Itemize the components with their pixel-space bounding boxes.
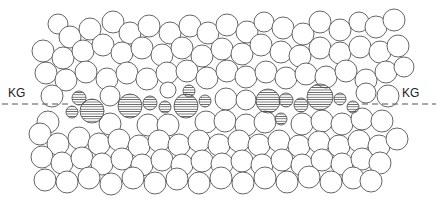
grain-circle (191, 150, 213, 172)
grain-circle (168, 134, 190, 156)
grain-circle (144, 172, 166, 194)
grain-circle (75, 61, 97, 83)
grain-circle (32, 40, 54, 62)
grain-circle (160, 82, 176, 98)
grain-circle (231, 150, 253, 172)
grain-circle (31, 146, 53, 168)
grain-circle (68, 127, 90, 149)
grain-circle (210, 167, 232, 189)
grain-circle (360, 170, 382, 192)
grain-circle (34, 169, 56, 191)
grain-circle (214, 110, 236, 132)
grain-circle (311, 110, 333, 132)
grain-circle (275, 67, 297, 89)
grain-circle (72, 40, 94, 62)
grain-circle (254, 167, 276, 189)
grain-circle (254, 111, 276, 133)
hatched-grain-circle (256, 89, 280, 113)
grain-circle (216, 14, 238, 36)
grain-circle (111, 148, 133, 170)
grain-packing-diagram: KG KG (0, 0, 438, 199)
grain-circle (228, 130, 250, 152)
hatched-grain-circle (66, 106, 78, 118)
grain-circle (329, 19, 351, 41)
grain-circle (136, 68, 158, 90)
grain-circle (108, 129, 130, 151)
grain-circle (270, 41, 292, 63)
grain-circle (111, 42, 133, 64)
hatched-grain-circle (80, 99, 104, 123)
grain-circle (52, 47, 74, 69)
hatched-grain-circle (334, 93, 346, 105)
grain-circle (151, 149, 173, 171)
grain-circle (309, 11, 331, 33)
hatched-grain-circle (294, 98, 308, 112)
grain-circle (138, 15, 160, 37)
grain-circle (156, 62, 178, 84)
grain-circle (272, 17, 294, 39)
hatched-grain-circle (143, 96, 157, 110)
grain-circle (35, 62, 57, 84)
grain-circle (208, 134, 230, 156)
hatched-grain-circle (174, 94, 198, 118)
grain-circle (387, 35, 409, 57)
grain-circle (100, 173, 122, 195)
grain-circle (250, 34, 272, 56)
grain-circle (248, 134, 270, 156)
grain-circle (295, 63, 317, 85)
grain-circle (309, 37, 331, 59)
hatched-grain-circle (183, 85, 195, 97)
grain-circle (394, 57, 414, 77)
grain-circle (171, 37, 193, 59)
hatched-grain-circle (118, 94, 142, 118)
hatched-grain-circle (159, 101, 171, 113)
grain-circle (166, 168, 188, 190)
grain-circle (298, 166, 320, 188)
grain-circle (148, 130, 170, 152)
grain-circle (196, 67, 218, 89)
grain-circle (56, 171, 78, 193)
hatched-grain-circle (199, 95, 211, 107)
hatched-grain-circle (275, 113, 287, 125)
grain-circle (331, 113, 353, 135)
kg-label-left: KG (8, 86, 25, 100)
grain-circle (188, 130, 210, 152)
grain-circle (100, 86, 120, 106)
kg-label-right: KG (402, 86, 419, 100)
grain-circle (236, 90, 256, 110)
grain-circle (371, 110, 393, 132)
grain-circle (383, 9, 405, 31)
grain-circle (320, 171, 342, 193)
grain-circle (78, 167, 100, 189)
grain-circle (271, 149, 293, 171)
grain-circle (254, 12, 274, 32)
grain-circle (268, 130, 290, 152)
grain-circle (232, 172, 254, 194)
grain-circle (386, 128, 408, 150)
grain-circle (349, 36, 371, 58)
grain-circle (276, 171, 298, 193)
hatched-grain-circle (279, 93, 293, 107)
grain-circle (211, 38, 233, 60)
grain-circle (188, 172, 210, 194)
grain-circle (51, 152, 73, 174)
grain-circle (375, 61, 397, 83)
grain-circle (291, 113, 313, 135)
grain-canvas (0, 0, 438, 199)
grain-circle (116, 62, 138, 84)
grain-circle (176, 60, 198, 82)
grain-circle (131, 37, 153, 59)
grain-circle (356, 83, 376, 103)
hatched-grain-circle (307, 84, 333, 110)
grain-circle (215, 88, 237, 110)
grain-circle (71, 147, 93, 169)
grain-circle (255, 61, 277, 83)
grain-circle (235, 66, 257, 88)
grain-circle (335, 60, 357, 82)
grain-circle (122, 167, 144, 189)
hatched-grain-circle (347, 101, 359, 113)
